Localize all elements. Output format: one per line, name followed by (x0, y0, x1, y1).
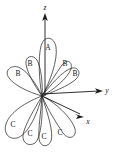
axis-line-x (42, 96, 80, 114)
lobe-group-c (5, 96, 75, 146)
lobe-label-b-left: B (15, 70, 20, 78)
axis-group (42, 13, 103, 119)
lobe-label-a: A (45, 44, 50, 52)
lobe-label-b-right: B (72, 70, 77, 78)
axis-arrowhead-x (75, 114, 84, 119)
lobe-label-b-upper-left: B (27, 60, 32, 68)
lobe-label-c-lower-left: C (10, 121, 15, 129)
lobe-label-c-down: C (41, 133, 46, 141)
axis-label-z: z (44, 4, 47, 12)
lobe-b-left (7, 67, 42, 96)
radiation-lobe-diagram: z y x A B B B B C C C C (0, 0, 115, 155)
axis-label-x: x (86, 118, 89, 126)
lobe-label-c-lower-left-inner: C (27, 130, 32, 138)
lobe-label-b-upper-right: B (62, 60, 67, 68)
axis-label-y: y (105, 87, 108, 95)
lobe-label-c-lower-right: C (57, 129, 62, 137)
